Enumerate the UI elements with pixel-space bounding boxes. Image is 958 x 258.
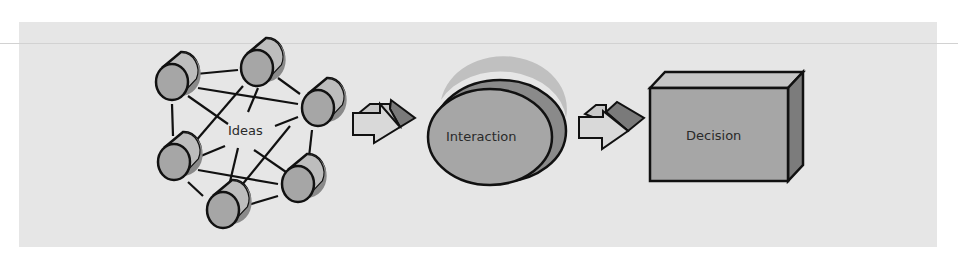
- interaction-label: Interaction: [446, 129, 517, 144]
- ideas-label: Ideas: [228, 123, 263, 138]
- decision-shape: [650, 72, 803, 181]
- decision-label: Decision: [686, 128, 741, 143]
- idea-to-decision-diagram: Ideas Interaction Decision: [0, 0, 958, 258]
- idea-cylinder-icon: [282, 154, 327, 202]
- idea-cylinder-icon: [158, 132, 203, 180]
- interaction-shape: [428, 56, 567, 185]
- idea-cylinder-icon: [207, 180, 252, 228]
- right-arrow-3d-icon: [353, 100, 415, 143]
- right-arrow-3d-icon: [579, 102, 644, 149]
- idea-cylinder-icon: [302, 78, 347, 126]
- idea-cylinder-icon: [156, 52, 201, 100]
